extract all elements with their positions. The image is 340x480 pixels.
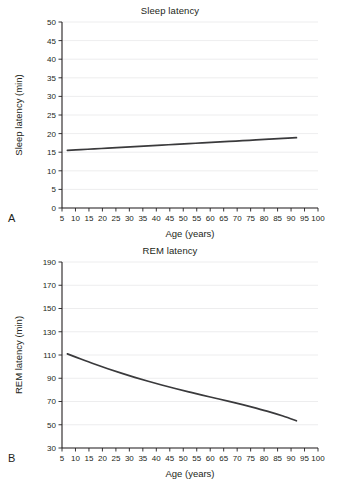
y-tick-label: 150: [43, 304, 57, 313]
x-axis-label: Age (years): [165, 468, 214, 479]
x-tick-label: 10: [71, 454, 80, 463]
x-tick-label: 40: [152, 214, 161, 223]
data-series-line: [67, 354, 296, 421]
x-tick-label: 45: [165, 214, 174, 223]
x-tick-label: 55: [192, 214, 201, 223]
y-tick-label: 110: [43, 351, 56, 360]
panel-b-plot: 3050709011013015017019051015202530354045…: [0, 240, 340, 480]
y-tick-label: 30: [47, 92, 56, 101]
x-tick-label: 30: [125, 214, 134, 223]
x-tick-label: 80: [260, 214, 269, 223]
y-tick-label: 90: [47, 374, 56, 383]
x-tick-label: 60: [206, 454, 215, 463]
x-tick-label: 35: [138, 214, 147, 223]
y-tick-label: 50: [47, 421, 56, 430]
y-tick-label: 5: [52, 185, 57, 194]
x-tick-label: 60: [206, 214, 215, 223]
x-tick-label: 85: [273, 454, 282, 463]
x-tick-label: 100: [311, 214, 325, 223]
panel-a: Sleep latency A 051015202530354045505101…: [0, 0, 340, 240]
x-tick-label: 20: [98, 454, 107, 463]
x-tick-label: 100: [311, 454, 325, 463]
x-tick-label: 55: [192, 454, 201, 463]
panel-b: REM latency B 30507090110130150170190510…: [0, 240, 340, 480]
x-tick-label: 30: [125, 454, 134, 463]
x-tick-label: 65: [219, 214, 228, 223]
y-tick-label: 15: [47, 148, 56, 157]
x-tick-label: 15: [84, 454, 93, 463]
x-tick-label: 95: [300, 454, 309, 463]
y-tick-label: 10: [47, 167, 56, 176]
y-axis-label: Sleep latency (min): [13, 74, 24, 155]
y-tick-label: 45: [47, 37, 56, 46]
x-tick-label: 15: [84, 214, 93, 223]
y-tick-label: 70: [47, 397, 56, 406]
y-tick-label: 25: [47, 111, 56, 120]
x-tick-label: 5: [60, 454, 65, 463]
x-tick-label: 35: [138, 454, 147, 463]
x-axis-label: Age (years): [165, 228, 214, 239]
y-tick-label: 190: [43, 258, 57, 267]
figure-container: Sleep latency A 051015202530354045505101…: [0, 0, 340, 480]
x-tick-label: 45: [165, 454, 174, 463]
y-tick-label: 170: [43, 281, 57, 290]
x-tick-label: 85: [273, 214, 282, 223]
y-tick-label: 50: [47, 18, 56, 27]
x-tick-label: 70: [233, 454, 242, 463]
y-tick-label: 0: [52, 204, 57, 213]
x-tick-label: 90: [287, 454, 296, 463]
x-tick-label: 50: [179, 454, 188, 463]
x-tick-label: 5: [60, 214, 65, 223]
x-tick-label: 90: [287, 214, 296, 223]
y-tick-label: 130: [43, 328, 57, 337]
y-tick-label: 30: [47, 444, 56, 453]
x-tick-label: 75: [246, 454, 255, 463]
x-tick-label: 70: [233, 214, 242, 223]
data-series-line: [67, 138, 296, 151]
x-tick-label: 95: [300, 214, 309, 223]
x-tick-label: 75: [246, 214, 255, 223]
x-tick-label: 10: [71, 214, 80, 223]
x-tick-label: 25: [111, 454, 120, 463]
y-tick-label: 35: [47, 74, 56, 83]
x-tick-label: 50: [179, 214, 188, 223]
x-tick-label: 20: [98, 214, 107, 223]
x-tick-label: 25: [111, 214, 120, 223]
panel-a-plot: 0510152025303540455051015202530354045505…: [0, 0, 340, 240]
x-tick-label: 80: [260, 454, 269, 463]
x-tick-label: 65: [219, 454, 228, 463]
y-tick-label: 20: [47, 130, 56, 139]
x-tick-label: 40: [152, 454, 161, 463]
y-tick-label: 40: [47, 55, 56, 64]
y-axis-label: REM latency (min): [13, 316, 24, 394]
